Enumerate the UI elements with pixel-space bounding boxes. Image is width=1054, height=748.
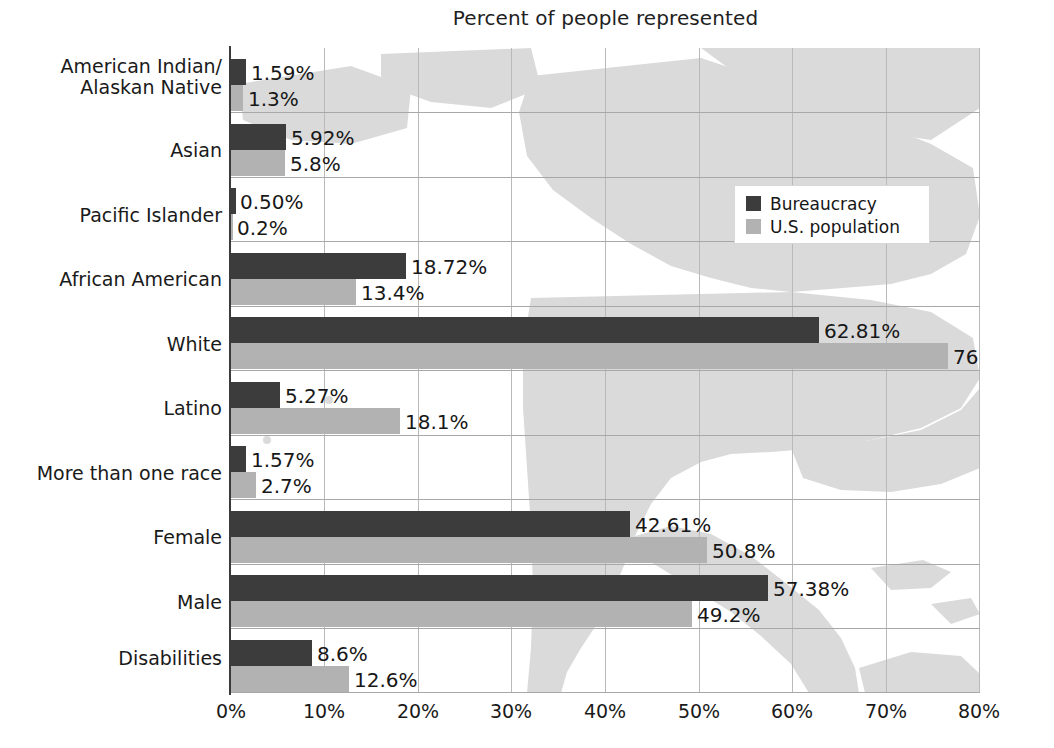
bar-value-label: 1.57% (251, 450, 315, 470)
bar-value-label: 57.38% (773, 579, 849, 599)
category-label-white: White (0, 334, 222, 355)
bar-us-population-pacific-islander (231, 214, 233, 240)
category-label-male: Male (0, 592, 222, 613)
legend-item-bureaucracy: Bureaucracy (746, 192, 919, 215)
legend-item-us-population: U.S. population (746, 215, 919, 238)
category-label-asian: Asian (0, 140, 222, 161)
chart-root: Percent of people represented (0, 0, 1054, 748)
bar-value-label: 1.3% (248, 89, 299, 109)
bar-us-population-american-indian-alaskan-native (231, 85, 243, 111)
bar-us-population-more-than-one-race (231, 472, 256, 498)
bar-bureaucracy-white (231, 317, 819, 343)
legend-label: U.S. population (770, 217, 900, 237)
x-tick-label: 20% (397, 700, 439, 722)
bar-value-label: 2.7% (261, 476, 312, 496)
category-label-female: Female (0, 527, 222, 548)
bar-bureaucracy-latino (231, 382, 280, 408)
legend-swatch-icon (746, 196, 761, 211)
bar-us-population-latino (231, 408, 400, 434)
bar-us-population-male (231, 601, 692, 627)
bar-bureaucracy-female (231, 511, 630, 537)
category-label-american-indian-alaskan-native: American Indian/ Alaskan Native (0, 56, 222, 99)
y-axis-spine (229, 46, 231, 695)
chart-legend: Bureaucracy U.S. population (734, 185, 930, 244)
x-tick-label: 70% (865, 700, 907, 722)
bar-value-label: 42.61% (635, 515, 711, 535)
bar-value-label: 0.2% (237, 218, 288, 238)
bar-us-population-female (231, 537, 707, 563)
bar-bureaucracy-male (231, 575, 768, 601)
bar-bureaucracy-disabilities (231, 640, 312, 666)
x-tick-label: 10% (303, 700, 345, 722)
bar-us-population-disabilities (231, 666, 349, 692)
bar-value-label: 5.8% (290, 154, 341, 174)
x-tick-label: 30% (490, 700, 532, 722)
category-label-pacific-islander: Pacific Islander (0, 205, 222, 226)
bar-value-label: 50.8% (712, 541, 776, 561)
bar-value-label: 1.59% (251, 63, 315, 83)
bar-value-label: 18.1% (405, 412, 469, 432)
bars-layer: 1.59% 1.3% 5.92% 5.8% 0.50% 0.2% 18.72% … (231, 48, 980, 693)
plot-area: 1.59% 1.3% 5.92% 5.8% 0.50% 0.2% 18.72% … (231, 48, 980, 693)
category-label-disabilities: Disabilities (0, 648, 222, 669)
category-label-more-than-one-race: More than one race (0, 463, 222, 484)
bar-value-label: 18.72% (411, 257, 487, 277)
bar-value-label: 5.92% (291, 128, 355, 148)
bar-bureaucracy-african-american (231, 253, 406, 279)
bar-value-label: 8.6% (317, 644, 368, 664)
bar-us-population-asian (231, 150, 285, 176)
x-tick-label: 0% (216, 700, 246, 722)
bar-bureaucracy-asian (231, 124, 286, 150)
bar-value-label: 13.4% (361, 283, 425, 303)
legend-swatch-icon (746, 219, 761, 234)
y-axis-labels: American Indian/ Alaskan Native Asian Pa… (0, 0, 222, 748)
bar-us-population-white (231, 343, 948, 369)
chart-title: Percent of people represented (231, 6, 980, 30)
bar-bureaucracy-american-indian-alaskan-native (231, 59, 246, 85)
bar-value-label: 12.6% (354, 670, 418, 690)
bar-value-label: 5.27% (285, 386, 349, 406)
category-label-latino: Latino (0, 398, 222, 419)
bar-bureaucracy-more-than-one-race (231, 446, 246, 472)
legend-label: Bureaucracy (770, 194, 877, 214)
category-label-african-american: African American (0, 269, 222, 290)
bar-bureaucracy-pacific-islander (231, 188, 236, 214)
bar-value-label: 49.2% (697, 605, 761, 625)
x-tick-label: 60% (771, 700, 813, 722)
bar-value-label: 76.6% (953, 347, 980, 367)
x-tick-label: 80% (958, 700, 1000, 722)
bar-value-label: 0.50% (240, 192, 304, 212)
bar-value-label: 62.81% (824, 321, 900, 341)
x-tick-label: 50% (678, 700, 720, 722)
bar-us-population-african-american (231, 279, 356, 305)
x-tick-label: 40% (584, 700, 626, 722)
